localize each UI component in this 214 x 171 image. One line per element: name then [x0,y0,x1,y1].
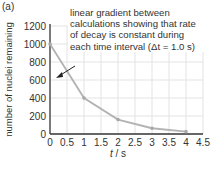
x-tick-label: 4.5 [196,137,210,148]
data-point [184,130,188,134]
data-point [82,96,86,100]
x-axis-unit: / s [113,148,126,159]
data-point [116,118,120,122]
y-axis-label: number of nuclei remaining [3,20,14,140]
x-tick-label: 3 [149,137,155,148]
x-tick-label: 2 [115,137,121,148]
x-tick-label: 3.5 [162,137,176,148]
x-axis-label: t / s [110,148,126,159]
annotation-line: of decay is constant during [70,29,210,40]
annotation-line: each time interval (Δt = 1.0 s) [70,41,210,52]
y-tick-label: 1200 [24,21,47,32]
annotation-line: calculations showing that rate [70,18,210,29]
x-tick-label: 2.5 [128,137,142,148]
x-tick-label: 1 [81,137,87,148]
y-tick-label: 800 [29,57,46,68]
arrow-head [56,72,63,78]
data-point [150,126,154,130]
data-point [48,42,52,46]
annotation-text: linear gradient between calculations sho… [68,7,212,52]
x-tick-label: 1.5 [94,137,108,148]
annotation-line: linear gradient between [70,7,210,18]
y-tick-label: 200 [29,111,46,122]
y-tick-label: 600 [29,75,46,86]
x-tick-label: 4 [183,137,189,148]
y-tick-label: 400 [29,93,46,104]
y-tick-label: 1000 [24,39,47,50]
y-tick-label: 0 [40,129,46,140]
x-tick-label: 0.5 [60,137,74,148]
x-tick-label: 0 [47,137,53,148]
panel-label: (a) [2,1,14,12]
